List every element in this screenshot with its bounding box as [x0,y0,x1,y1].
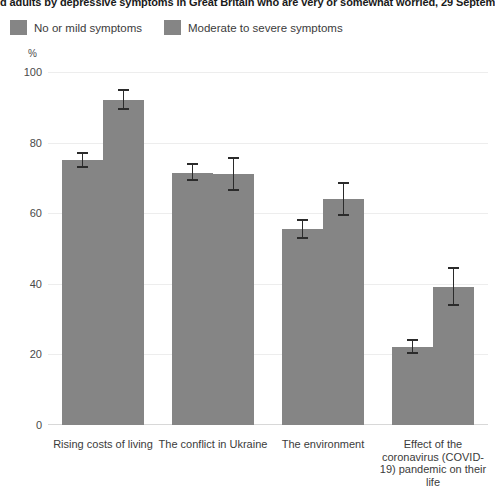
bar-chart: d adults by depressive symptoms in Great… [0,0,495,503]
chart-title: d adults by depressive symptoms in Great… [0,0,495,9]
error-bar [192,164,193,180]
error-bar-cap [77,152,88,154]
y-axis-tick-label: 40 [30,278,42,290]
y-axis-tick-label: 0 [36,419,42,431]
plot-area: 020406080100 [48,72,488,425]
x-axis-category-label: The conflict in Ukraine [158,438,268,451]
legend-swatch-icon [10,20,27,35]
error-bar-cap [77,166,88,168]
error-bar [82,153,83,167]
y-axis-tick-label: 20 [30,348,42,360]
legend-swatch-icon [164,20,181,35]
legend-item-moderate-to-severe[interactable]: Moderate to severe symptoms [164,20,343,35]
legend-item-no-or-mild[interactable]: No or mild symptoms [10,20,142,35]
bar[interactable] [433,287,474,425]
error-bar-cap [297,237,308,239]
error-bar-cap [338,214,349,216]
legend-label: Moderate to severe symptoms [188,22,343,34]
legend-label: No or mild symptoms [34,22,142,34]
y-axis-tick-label: 80 [30,137,42,149]
bar[interactable] [282,229,323,425]
error-bar-cap [228,157,239,159]
error-bar-cap [118,89,129,91]
x-axis-labels: Rising costs of livingThe conflict in Uk… [48,430,488,503]
bar[interactable] [213,174,254,425]
error-bar [453,268,454,305]
error-bar-cap [187,163,198,165]
x-axis-category-label: Effect of the coronavirus (COVID-19) pan… [378,438,488,488]
y-axis-unit: % [28,48,37,59]
error-bar-cap [297,219,308,221]
error-bar [123,90,124,109]
error-bar [343,183,344,215]
bar[interactable] [103,100,144,425]
error-bar-cap [448,267,459,269]
error-bar-cap [118,108,129,110]
x-axis-category-label: The environment [268,438,378,451]
error-bar-cap [187,179,198,181]
error-bar-cap [448,304,459,306]
y-axis-tick-label: 100 [24,66,42,78]
error-bar-cap [338,182,349,184]
bar[interactable] [62,160,103,425]
bar[interactable] [323,199,364,425]
error-bar-cap [407,352,418,354]
error-bar-cap [407,339,418,341]
error-bar [302,220,303,238]
x-axis-category-label: Rising costs of living [48,438,158,451]
chart-legend: No or mild symptoms Moderate to severe s… [10,20,343,35]
bar[interactable] [172,173,213,425]
bar[interactable] [392,347,433,425]
y-axis-tick-label: 60 [30,207,42,219]
error-bar [233,158,234,190]
gridline [48,72,488,73]
error-bar-cap [228,189,239,191]
